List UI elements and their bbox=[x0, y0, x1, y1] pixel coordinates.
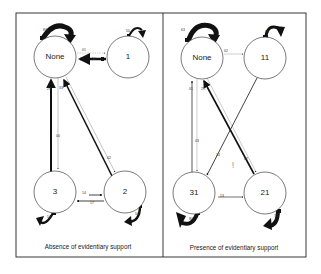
svg-text:13: 13 bbox=[220, 194, 224, 198]
svg-text:80: 80 bbox=[189, 217, 193, 221]
edge-none-to-31: 03 bbox=[195, 79, 199, 171]
transition-diagram: 01 50 29 00 33 02 14 17 bbox=[0, 0, 321, 274]
edge-none-to-11: 02 bbox=[224, 49, 243, 54]
svg-text:14: 14 bbox=[216, 153, 220, 157]
svg-text:02: 02 bbox=[224, 49, 228, 53]
svg-text:57: 57 bbox=[47, 215, 51, 219]
edge-2-to-none: 33 bbox=[59, 80, 112, 176]
svg-text:84: 84 bbox=[43, 28, 47, 32]
panel-presence: 02 01 03 29 07 14 13 I̧ bbox=[173, 25, 286, 252]
svg-text:14: 14 bbox=[82, 191, 86, 195]
node-none: None bbox=[34, 36, 76, 78]
svg-text:33: 33 bbox=[59, 86, 63, 90]
svg-text:07: 07 bbox=[244, 157, 248, 161]
caption-absence: Absence of evidentiary support bbox=[45, 243, 132, 251]
node-1: 1 bbox=[107, 36, 149, 78]
svg-text:50: 50 bbox=[126, 29, 130, 33]
svg-text:1: 1 bbox=[126, 52, 131, 61]
svg-text:01: 01 bbox=[82, 48, 86, 52]
annotation-mark: I̧ bbox=[232, 161, 234, 168]
svg-text:29: 29 bbox=[47, 87, 51, 91]
svg-text:02: 02 bbox=[107, 156, 111, 160]
panel-absence: 01 50 29 00 33 02 14 17 bbox=[34, 26, 149, 251]
edge-none-to-2: 02 bbox=[66, 77, 115, 172]
svg-text:11: 11 bbox=[261, 53, 270, 62]
svg-text:31: 31 bbox=[190, 188, 199, 197]
node-11: 11 bbox=[244, 37, 286, 79]
node-31: 31 bbox=[173, 172, 215, 214]
svg-text:85: 85 bbox=[265, 30, 269, 34]
svg-text:17: 17 bbox=[90, 201, 94, 205]
caption-presence: Presence of evidentiary support bbox=[190, 244, 279, 252]
node-2: 2 bbox=[104, 171, 146, 213]
svg-text:01: 01 bbox=[189, 87, 193, 91]
node-21: 21 bbox=[244, 172, 286, 214]
self-loop-31: 80 bbox=[176, 212, 200, 228]
edge-3-to-none: 29 bbox=[47, 80, 51, 172]
svg-text:None: None bbox=[192, 53, 212, 62]
svg-text:63: 63 bbox=[181, 28, 185, 32]
edge-none-to-1: 01 bbox=[77, 48, 105, 53]
edge-3-to-2: 14 bbox=[82, 191, 102, 195]
svg-text:None: None bbox=[45, 52, 65, 61]
svg-text:71: 71 bbox=[274, 214, 278, 218]
edge-none-to-21: 07 bbox=[207, 78, 256, 172]
self-loop-3: 57 bbox=[36, 212, 56, 226]
svg-text:3: 3 bbox=[53, 187, 58, 196]
svg-text:03: 03 bbox=[195, 139, 199, 143]
edge-31-to-21: 13 bbox=[218, 194, 243, 198]
node-none: None bbox=[181, 37, 223, 79]
edge-none-to-3: 00 bbox=[56, 78, 60, 169]
svg-text:29: 29 bbox=[201, 87, 205, 91]
svg-text:2: 2 bbox=[123, 187, 128, 196]
node-3: 3 bbox=[34, 171, 76, 213]
svg-text:50: 50 bbox=[92, 57, 96, 61]
svg-text:00: 00 bbox=[56, 134, 60, 138]
edge-2-to-3: 17 bbox=[77, 201, 104, 205]
edge-31-to-none: 01 bbox=[189, 81, 193, 172]
svg-text:50: 50 bbox=[135, 212, 139, 216]
svg-text:21: 21 bbox=[261, 188, 270, 197]
edge-1-to-none: 50 bbox=[80, 57, 106, 61]
